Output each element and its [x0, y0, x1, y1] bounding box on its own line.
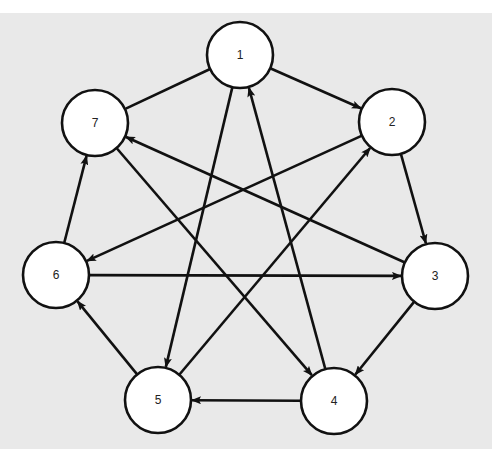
node-5: 5 [125, 367, 191, 433]
node-label: 1 [237, 48, 244, 62]
node-label: 7 [92, 116, 99, 130]
node-label: 4 [331, 394, 338, 408]
graph-diagram: 1234567 [0, 0, 492, 449]
node-label: 3 [432, 269, 439, 283]
node-label: 5 [155, 393, 162, 407]
edge-4-to-5 [192, 400, 301, 401]
edge-6-to-3 [89, 275, 401, 276]
node-1: 1 [207, 22, 273, 88]
node-label: 6 [53, 268, 60, 282]
node-label: 2 [389, 115, 396, 129]
node-6: 6 [23, 242, 89, 308]
node-3: 3 [402, 243, 468, 309]
node-2: 2 [359, 89, 425, 155]
node-4: 4 [301, 368, 367, 434]
node-7: 7 [62, 90, 128, 156]
